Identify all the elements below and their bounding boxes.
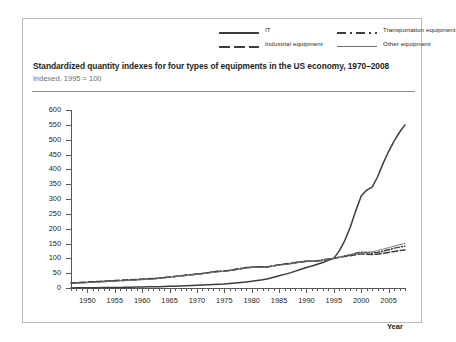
x-axis-tick-minor [230, 288, 231, 291]
x-axis-tick-major [306, 288, 307, 293]
chart-title: Standardized quantity indexes for four t… [33, 61, 413, 71]
x-axis-tick-minor [213, 288, 214, 291]
x-axis-tick-minor [76, 288, 77, 291]
y-axis-label: 300 [31, 194, 61, 203]
y-axis-label: 250 [31, 209, 61, 218]
x-axis-tick-minor [235, 288, 236, 291]
legend-swatch-icon [337, 46, 377, 47]
x-axis-tick-minor [268, 288, 269, 291]
legend-label: Transportation equipment [383, 26, 456, 33]
x-axis-tick-minor [328, 288, 329, 291]
x-axis-tick-minor [339, 288, 340, 291]
chart-subtitle: Indexed, 1995 = 100 [33, 74, 413, 83]
y-axis-tick [66, 125, 71, 126]
x-axis-tick-minor [285, 288, 286, 291]
x-axis-tick-minor [356, 288, 357, 291]
y-axis-label: 50 [31, 268, 61, 277]
y-axis-label: 150 [31, 239, 61, 248]
x-axis-tick-minor [317, 288, 318, 291]
x-axis-tick-minor [202, 288, 203, 291]
x-axis-tick-major [197, 288, 198, 293]
x-axis-tick-minor [219, 288, 220, 291]
x-axis-tick-minor [71, 288, 72, 291]
x-axis-tick-minor [378, 288, 379, 291]
x-axis-tick-minor [295, 288, 296, 291]
y-axis-label: 200 [31, 224, 61, 233]
y-axis-label: 0 [31, 283, 61, 292]
x-axis-tick-minor [367, 288, 368, 291]
y-axis-label: 100 [31, 253, 61, 262]
x-axis-tick-minor [93, 288, 94, 291]
x-axis-tick-minor [175, 288, 176, 291]
x-axis-tick-major [279, 288, 280, 293]
series-line-industrial-equipment [71, 250, 405, 283]
x-axis-tick-minor [191, 288, 192, 291]
chart-legend: ITTransportation equipmentIndustrial equ… [219, 23, 419, 53]
legend-swatch-icon [219, 46, 259, 48]
x-axis-tick-minor [394, 288, 395, 291]
x-axis-tick-minor [383, 288, 384, 291]
x-axis-label: 2005 [369, 296, 409, 305]
x-axis-tick-minor [372, 288, 373, 291]
x-axis-tick-minor [345, 288, 346, 291]
x-axis-tick-major [389, 288, 390, 293]
legend-label: Industrial equipment [265, 40, 323, 47]
x-axis-tick-minor [137, 288, 138, 291]
x-axis-title: Year [387, 322, 403, 331]
x-axis-tick-minor [120, 288, 121, 291]
y-axis-tick [66, 140, 71, 141]
y-axis-label: 400 [31, 164, 61, 173]
y-axis-label: 350 [31, 179, 61, 188]
x-axis-tick-minor [153, 288, 154, 291]
x-axis-tick-minor [126, 288, 127, 291]
x-axis-tick-minor [301, 288, 302, 291]
series-line-transportation-equipment [71, 246, 405, 283]
y-axis-tick [66, 214, 71, 215]
y-axis-tick [66, 199, 71, 200]
legend-label: Other equipment [383, 40, 431, 47]
x-axis-tick-minor [131, 288, 132, 291]
legend-swatch-icon [219, 32, 259, 34]
x-axis-tick-major [334, 288, 335, 293]
x-axis-tick-minor [350, 288, 351, 291]
x-axis-tick-minor [274, 288, 275, 291]
y-axis-tick [66, 229, 71, 230]
x-axis-tick-minor [257, 288, 258, 291]
y-axis-tick [66, 155, 71, 156]
x-axis-tick-minor [290, 288, 291, 291]
y-axis-label: 550 [31, 120, 61, 129]
x-axis-tick-minor [208, 288, 209, 291]
title-block: Standardized quantity indexes for four t… [33, 61, 413, 83]
x-axis-tick-minor [181, 288, 182, 291]
x-axis-tick-major [224, 288, 225, 293]
y-axis-tick [66, 169, 71, 170]
y-axis-label: 450 [31, 150, 61, 159]
x-axis-tick-minor [263, 288, 264, 291]
x-axis-tick-minor [159, 288, 160, 291]
legend-label: IT [265, 26, 271, 33]
series-lines [71, 110, 405, 288]
y-axis-tick [66, 244, 71, 245]
legend-swatch-icon [337, 32, 377, 34]
y-axis-tick [66, 273, 71, 274]
x-axis-tick-minor [246, 288, 247, 291]
series-line-it [71, 125, 405, 288]
y-axis-tick [66, 258, 71, 259]
chart-card: ITTransportation equipmentIndustrial equ… [22, 18, 422, 323]
y-axis-label: 600 [31, 105, 61, 114]
y-axis-label: 500 [31, 135, 61, 144]
x-axis-tick-minor [323, 288, 324, 291]
x-axis-tick-major [361, 288, 362, 293]
x-axis-tick-major [252, 288, 253, 293]
x-axis-tick-minor [405, 288, 406, 291]
x-axis-tick-minor [82, 288, 83, 291]
x-axis-tick-major [142, 288, 143, 293]
x-axis-tick-minor [164, 288, 165, 291]
y-axis-tick [66, 110, 71, 111]
x-axis-tick-minor [312, 288, 313, 291]
x-axis-tick-minor [98, 288, 99, 291]
header-divider [32, 91, 415, 92]
x-axis-tick-minor [400, 288, 401, 291]
plot-area [71, 110, 405, 288]
x-axis-tick-minor [104, 288, 105, 291]
